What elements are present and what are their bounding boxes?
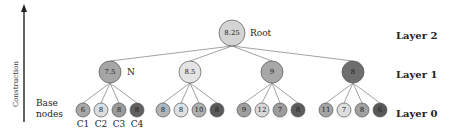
leaf-node-value: 12 (258, 106, 267, 114)
leaf-node: 6 (76, 103, 90, 117)
leaf-node: 8 (112, 103, 126, 117)
leaf-node-value: 8 (179, 106, 183, 114)
leaf-node-value: 8 (99, 106, 103, 114)
leaf-node-value: 7 (278, 106, 282, 114)
layer1-label: N (127, 67, 135, 77)
leaf-label: C3 (113, 119, 126, 129)
leaf-node-value: 8 (360, 106, 364, 114)
tree-edge (244, 83, 272, 103)
tree-edge (232, 46, 353, 61)
leaf-node: 8 (130, 103, 144, 117)
leaf-node: 6 (373, 103, 387, 117)
leaf-node-value: 10 (195, 106, 204, 114)
leaf-node: 8 (291, 103, 305, 117)
nodes: 6C18C28C38C47.5N881088.59127891178688.25… (76, 20, 387, 129)
leaf-node-value: 8 (161, 106, 165, 114)
tree-edge (83, 83, 110, 103)
layer1-node: 7.5 (99, 61, 121, 83)
layer-0-label: Layer 0 (396, 108, 437, 119)
leaf-node: 8 (94, 103, 108, 117)
layer1-node: 8 (342, 61, 364, 83)
leaf-node: 11 (319, 103, 333, 117)
leaf-node-value: 6 (81, 106, 86, 114)
leaf-label: C2 (95, 119, 108, 129)
tree-edge (110, 83, 137, 103)
leaf-node-value: 8 (135, 106, 139, 114)
tree-edge (190, 83, 217, 103)
root-label: Root (250, 28, 272, 38)
layer1-node-value: 9 (270, 68, 274, 76)
leaf-node-value: 8 (296, 106, 300, 114)
leaf-node: 7 (337, 103, 351, 117)
leaf-label: C4 (131, 119, 144, 129)
leaf-node-value: 9 (242, 106, 246, 114)
leaf-node-value: 7 (342, 106, 346, 114)
layer1-node: 8.5 (179, 61, 201, 83)
layer-1-label: Layer 1 (396, 69, 437, 80)
base-label-line1: Base (36, 98, 58, 108)
tree-edge (110, 46, 232, 61)
leaf-node-value: 8 (215, 106, 219, 114)
leaf-node: 8 (210, 103, 224, 117)
leaf-node: 10 (192, 103, 206, 117)
root-node-value: 8.25 (224, 29, 240, 37)
leaf-node-value: 11 (322, 106, 331, 114)
leaf-node: 8 (156, 103, 170, 117)
arrow-up-icon (21, 4, 27, 12)
layer1-node-value: 8 (351, 68, 355, 76)
leaf-label: C1 (77, 119, 90, 129)
tree-diagram: Construction Base nodes Layer 2 Layer 1 … (0, 0, 454, 137)
leaf-node: 9 (237, 103, 251, 117)
root-node: 8.25 (219, 20, 245, 46)
leaf-node: 12 (255, 103, 269, 117)
leaf-node: 8 (355, 103, 369, 117)
tree-edge (353, 83, 380, 103)
tree-edge (163, 83, 190, 103)
layer1-node: 9 (261, 61, 283, 83)
leaf-node: 7 (273, 103, 287, 117)
layer-2-label: Layer 2 (396, 30, 437, 41)
construction-axis: Construction (12, 4, 27, 122)
construction-label: Construction (12, 60, 20, 107)
leaf-node: 8 (174, 103, 188, 117)
layer1-node-value: 7.5 (104, 68, 115, 76)
leaf-node-value: 8 (117, 106, 121, 114)
tree-edge (262, 83, 272, 103)
tree-edge (326, 83, 353, 103)
base-label-line2: nodes (36, 109, 63, 119)
leaf-node-value: 6 (378, 106, 383, 114)
layer1-node-value: 8.5 (184, 68, 195, 76)
